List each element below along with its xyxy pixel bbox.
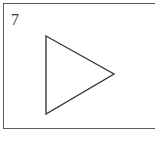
triangle-shape-canvas: [0, 0, 155, 144]
figure-panel-screenshot: 7: [0, 0, 155, 144]
right-pointing-triangle-icon: [46, 36, 114, 114]
